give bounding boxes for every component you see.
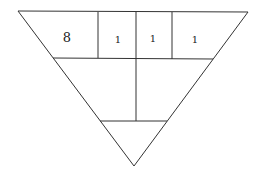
outer-triangle — [18, 11, 248, 166]
upper-divider — [53, 58, 213, 59]
cell-label-top-4: 1 — [192, 34, 198, 45]
triangle-diagram — [0, 0, 261, 178]
cell-label-top-3: 1 — [150, 33, 156, 44]
cell-label-top-2: 1 — [115, 34, 121, 45]
cell-label-top-1: 8 — [63, 30, 71, 45]
